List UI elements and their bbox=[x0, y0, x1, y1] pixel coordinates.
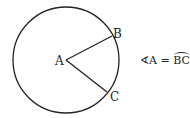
equals-sign: = bbox=[160, 54, 169, 67]
angle-arc-equation: ∢A = BC bbox=[140, 55, 190, 67]
label-b: B bbox=[113, 28, 122, 40]
label-c: C bbox=[110, 91, 119, 103]
diagram-canvas: A B C ∢A = BC bbox=[0, 0, 190, 118]
radius-ac bbox=[66, 60, 107, 92]
radius-ab bbox=[66, 36, 112, 60]
angle-vertex: A bbox=[149, 54, 157, 67]
arc-bc: BC bbox=[173, 55, 190, 67]
angle-icon: ∢ bbox=[140, 54, 149, 67]
label-a: A bbox=[55, 55, 64, 67]
